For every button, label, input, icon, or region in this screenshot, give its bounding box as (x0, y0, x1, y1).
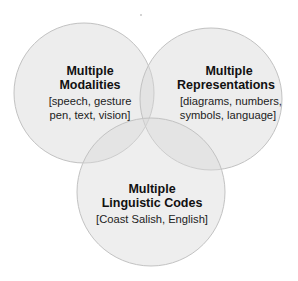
modalities-title-line-1: Multiple (40, 65, 140, 79)
linguistic-codes-detail-line-1: [Coast Salish, English] (92, 212, 212, 226)
modalities-detail-line-1: [speech, gesture (40, 94, 140, 108)
label-representations: Multiple Representations [diagrams, numb… (170, 65, 292, 122)
representations-detail-line-2: symbols, language] (164, 108, 292, 122)
linguistic-codes-title-line-2: Linguistic Codes (92, 197, 212, 211)
artifact-dot (140, 14, 141, 15)
representations-title-line-2: Representations (160, 79, 292, 93)
venn-circles (0, 0, 298, 281)
modalities-title-line-2: Modalities (40, 79, 140, 93)
representations-title-line-1: Multiple (166, 65, 292, 79)
representations-detail-line-1: [diagrams, numbers, (170, 94, 292, 108)
linguistic-codes-title-line-1: Multiple (92, 183, 212, 197)
label-linguistic-codes: Multiple Linguistic Codes [Coast Salish,… (92, 183, 212, 226)
venn-diagram: Multiple Modalities [speech, gesture pen… (0, 0, 298, 281)
modalities-detail-line-2: pen, text, vision] (40, 108, 140, 122)
label-modalities: Multiple Modalities [speech, gesture pen… (40, 65, 140, 122)
